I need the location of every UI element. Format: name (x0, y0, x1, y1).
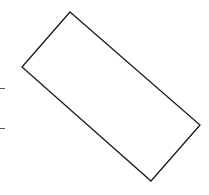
diagram-canvas (0, 0, 209, 195)
rotated-rectangle (22, 12, 200, 181)
